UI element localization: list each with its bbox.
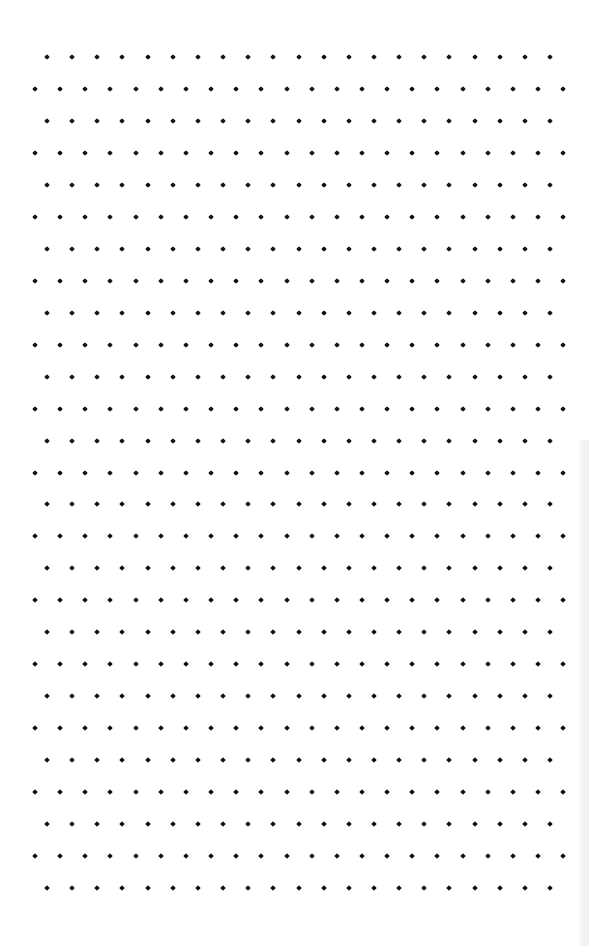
grid-dot [82,86,88,92]
grid-dot [409,470,415,476]
grid-dot [245,885,251,891]
grid-dot [396,54,402,60]
grid-dot [158,150,164,156]
grid-dot [220,246,226,252]
grid-dot [371,118,377,124]
grid-dot [522,246,528,252]
grid-dot [359,342,365,348]
grid-dot [510,214,516,220]
grid-dot [460,278,466,284]
grid-dot [371,438,377,444]
grid-dot [57,278,63,284]
grid-dot [94,438,100,444]
grid-dot [284,86,290,92]
grid-dot [195,757,201,763]
grid-dot [57,406,63,412]
grid-dot [82,597,88,603]
grid-dot [259,661,265,667]
grid-dot [32,86,38,92]
grid-dot [309,853,315,859]
grid-dot [421,566,427,572]
grid-dot [245,374,251,380]
grid-dot [396,629,402,635]
grid-dot [522,885,528,891]
grid-dot [346,118,352,124]
grid-dot [158,342,164,348]
grid-dot [447,566,453,572]
grid-dot [57,214,63,220]
grid-dot [170,310,176,316]
grid-dot [421,118,427,124]
grid-dot [359,406,365,412]
grid-dot [271,118,277,124]
grid-dot [384,214,390,220]
grid-dot [535,661,541,667]
grid-dot [170,629,176,635]
grid-dot [421,502,427,508]
grid-dot [145,118,151,124]
grid-dot [396,821,402,827]
grid-dot [245,246,251,252]
grid-dot [359,853,365,859]
grid-dot [359,470,365,476]
grid-dot [485,470,491,476]
grid-dot [271,502,277,508]
grid-dot [510,661,516,667]
grid-dot [522,310,528,316]
grid-dot [245,438,251,444]
grid-dot [245,54,251,60]
grid-dot [409,214,415,220]
grid-dot [435,342,441,348]
grid-dot [334,278,340,284]
grid-dot [497,885,503,891]
grid-dot [321,246,327,252]
grid-dot [409,725,415,731]
grid-dot [158,789,164,795]
grid-dot [69,118,75,124]
grid-dot [334,725,340,731]
grid-dot [547,629,553,635]
grid-dot [321,502,327,508]
grid-dot [220,54,226,60]
grid-dot [284,789,290,795]
grid-dot [57,534,63,540]
grid-dot [170,438,176,444]
grid-dot [435,534,441,540]
grid-dot [396,310,402,316]
grid-dot [233,725,239,731]
grid-dot [371,821,377,827]
grid-dot [208,534,214,540]
grid-dot [69,182,75,188]
grid-dot [259,853,265,859]
grid-dot [94,629,100,635]
grid-dot [309,278,315,284]
grid-dot [233,470,239,476]
grid-dot [472,310,478,316]
grid-dot [208,278,214,284]
grid-dot [460,597,466,603]
grid-dot [284,150,290,156]
grid-dot [108,789,114,795]
grid-dot [208,789,214,795]
grid-dot [460,661,466,667]
grid-dot [69,246,75,252]
grid-dot [32,150,38,156]
grid-dot [421,629,427,635]
grid-dot [321,118,327,124]
grid-dot [259,597,265,603]
grid-dot [309,789,315,795]
grid-dot [183,470,189,476]
grid-dot [460,789,466,795]
grid-dot [259,342,265,348]
grid-dot [409,406,415,412]
grid-dot [510,789,516,795]
grid-dot [447,310,453,316]
grid-dot [497,246,503,252]
grid-dot [82,725,88,731]
grid-dot [82,661,88,667]
grid-dot [57,789,63,795]
grid-dot [220,885,226,891]
grid-dot [547,757,553,763]
grid-dot [384,789,390,795]
grid-dot [133,597,139,603]
